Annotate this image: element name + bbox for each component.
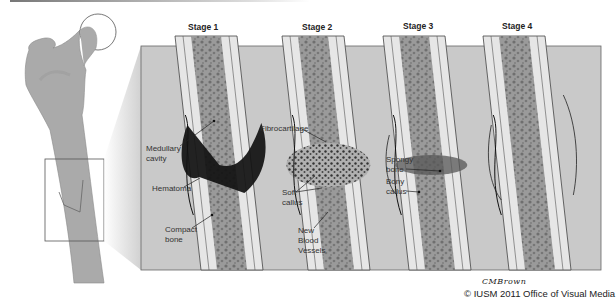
femur-shaft [25,30,104,283]
stage-3-title: Stage 3 [403,21,433,31]
label-spongy-bone: Spongy bone [386,155,413,175]
stage-1-title: Stage 1 [188,22,218,32]
label-compact-bone: Compact bone [165,225,197,245]
artist-signature: CMBrown [482,277,526,286]
stage-4-title: Stage 4 [502,21,532,31]
soft-callus [286,143,370,187]
label-new-blood-vessels: New Blood Vessels [298,226,326,256]
copyright-credit: © IUSM 2011 Office of Visual Media [464,288,615,299]
fracture-healing-diagram [0,0,616,303]
zoom-perspective [104,46,141,270]
femur-illustration [25,14,116,283]
label-medullary-cavity: Medullary cavity [146,144,181,164]
stage-2-title: Stage 2 [302,22,332,32]
label-fibrocartilage: Fibrocartilage [260,124,308,134]
label-hematoma: Hematoma [152,184,191,194]
label-soft-callus: Soft callus [282,188,302,208]
label-bony-callus: Bony callus [386,177,406,197]
